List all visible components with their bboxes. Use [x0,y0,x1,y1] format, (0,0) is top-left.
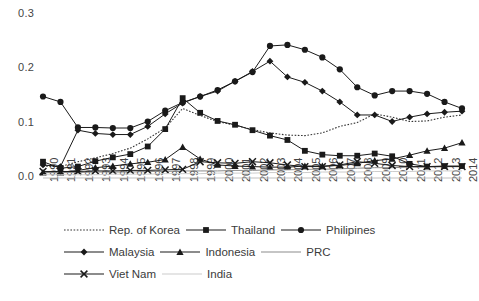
data-point [215,118,221,124]
data-point [458,139,465,145]
data-point [127,151,133,157]
legend-label: India [207,268,232,280]
series-malaysia [40,58,466,170]
legend-symbol-rep-of-korea [62,224,106,236]
data-point [301,79,308,86]
legend-symbol-india [160,268,204,280]
data-point [284,42,290,48]
chart-legend: Rep. of KoreaThailandPhilipinesMalaysiaI… [62,219,462,285]
legend-row: Rep. of KoreaThailandPhilipines [62,219,462,241]
data-point [127,131,134,138]
legend-item-thailand[interactable]: Thailand [184,219,279,241]
legend-item-philipines[interactable]: Philipines [279,219,379,241]
data-point [319,54,325,60]
series-line [43,45,462,128]
data-point [57,99,63,105]
data-point [302,47,308,53]
legend-label: Philipines [326,224,375,236]
data-point [354,84,360,90]
legend-symbol-indonesia [158,246,202,258]
data-point [424,110,431,117]
data-point [372,151,378,157]
data-point [424,91,430,97]
legend-label: Viet Nam [109,268,156,280]
legend-item-malaysia[interactable]: Malaysia [62,241,158,263]
data-point [250,127,256,133]
legend-label: Malaysia [109,246,154,258]
data-point [354,153,360,159]
data-point [40,93,46,99]
legend-label: Indonesia [205,246,255,258]
legend-symbol-thailand [184,224,228,236]
legend-item-viet-nam[interactable]: Viet Nam [62,263,160,285]
series-india [43,171,462,175]
data-point [267,133,273,139]
data-point [319,88,326,95]
series-thailand [40,95,465,171]
data-point [285,137,291,143]
legend-symbol-malaysia [62,246,106,258]
legend-item-indonesia[interactable]: Indonesia [158,241,259,263]
data-point [127,125,133,131]
data-point [232,122,238,128]
legend-symbol-philipines [279,224,323,236]
data-point [110,125,116,131]
data-point [337,66,343,72]
legend-item-india[interactable]: India [160,263,236,285]
data-point [197,93,204,100]
legend-item-rep-of-korea[interactable]: Rep. of Korea [62,219,184,241]
data-point [109,131,116,138]
data-point [179,143,186,149]
data-point [92,158,98,164]
series-line [43,61,462,166]
data-point [232,78,239,85]
data-point [162,156,169,162]
data-point [441,99,447,105]
series-philipines [40,42,465,131]
legend-label: PRC [306,246,330,258]
data-point [441,109,448,116]
legend-row: Viet NamIndia [62,263,462,285]
legend-label: Thailand [231,224,275,236]
data-point [372,92,378,98]
data-point [319,152,325,158]
data-point [197,110,203,116]
legend-symbol-prc [259,246,303,258]
data-point [145,144,151,150]
data-point [406,114,413,121]
legend-symbol-viet-nam [62,268,106,280]
legend-item-prc[interactable]: PRC [259,241,334,263]
data-point [337,153,343,159]
data-point [407,88,413,94]
data-point [92,124,98,130]
data-point [92,130,99,137]
data-point [302,148,308,154]
series-line [43,171,462,175]
data-point [144,123,151,130]
legend-row: MalaysiaIndonesiaPRC [62,241,462,263]
data-point [267,43,273,49]
data-point [371,112,378,119]
data-point [110,154,116,160]
data-point [162,126,168,132]
data-point [389,88,395,94]
legend-label: Rep. of Korea [109,224,180,236]
data-point [389,118,396,125]
